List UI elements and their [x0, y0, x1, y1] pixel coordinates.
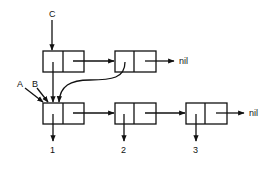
label-a: A — [17, 79, 23, 89]
value-3: 3 — [193, 145, 198, 155]
value-1: 1 — [50, 145, 55, 155]
label-b: B — [32, 79, 38, 89]
value-2: 2 — [121, 145, 126, 155]
label-top-nil: nil — [179, 56, 188, 66]
a-pointer-arrow — [25, 88, 43, 102]
b-pointer-arrow — [37, 88, 48, 102]
label-c: C — [49, 9, 56, 19]
label-bottom-nil: nil — [249, 108, 258, 118]
linked-list-diagram: C A B nil nil 1 2 3 — [0, 0, 272, 172]
